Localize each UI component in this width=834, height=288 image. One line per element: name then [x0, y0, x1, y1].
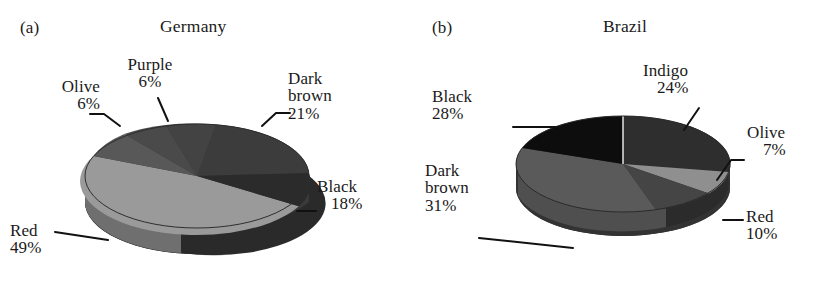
- panel-b-brazil: (b) Brazil: [417, 0, 834, 288]
- label-germany-black-name: Black: [317, 178, 407, 195]
- pie-chart-germany: [85, 112, 317, 264]
- label-germany-dark-brown-name-2: brown: [288, 87, 398, 104]
- pie-germany-top-face: [80, 123, 311, 235]
- label-germany-red: Red 49%: [10, 222, 90, 257]
- panel-a-germany: (a) Germany: [0, 0, 417, 288]
- label-brazil-dark-brown-name-1: Dark: [425, 162, 525, 179]
- pie-chart-brazil: [516, 104, 732, 246]
- panel-b-title: Brazil: [603, 16, 647, 37]
- label-germany-black: Black 18%: [317, 178, 407, 213]
- label-brazil-dark-brown-value: 31%: [425, 197, 525, 214]
- label-brazil-black: Black 28%: [432, 88, 522, 123]
- label-germany-purple-name: Purple: [110, 56, 190, 73]
- label-brazil-red-name: Red: [746, 208, 826, 225]
- label-brazil-olive-name: Olive: [747, 124, 827, 141]
- panel-a-letter: (a): [20, 18, 39, 38]
- figure-two-pie-charts: (a) Germany: [0, 0, 834, 288]
- label-brazil-black-value: 28%: [432, 105, 522, 122]
- label-brazil-dark-brown-name-2: brown: [425, 179, 525, 196]
- label-brazil-black-name: Black: [432, 88, 522, 105]
- label-brazil-olive: Olive 7%: [747, 124, 827, 159]
- panel-b-letter: (b): [432, 18, 452, 38]
- label-germany-olive-value: 6%: [0, 95, 100, 112]
- label-germany-dark-brown-value: 21%: [288, 105, 398, 122]
- label-germany-dark-brown: Dark brown 21%: [288, 70, 398, 122]
- label-germany-black-value: 18%: [317, 195, 407, 212]
- label-brazil-indigo-name: Indigo: [643, 62, 753, 79]
- label-brazil-dark-brown: Dark brown 31%: [425, 162, 525, 214]
- label-germany-purple-value: 6%: [110, 73, 190, 90]
- label-germany-olive-name: Olive: [0, 78, 100, 95]
- label-brazil-indigo: Indigo 24%: [643, 62, 753, 97]
- label-germany-olive: Olive 6%: [0, 78, 100, 113]
- label-germany-red-value: 49%: [10, 239, 90, 256]
- label-brazil-olive-value: 7%: [747, 141, 827, 158]
- label-germany-purple: Purple 6%: [110, 56, 190, 91]
- pie-brazil-top-face: [516, 116, 730, 212]
- label-brazil-red: Red 10%: [746, 208, 826, 243]
- label-germany-dark-brown-name-1: Dark: [288, 70, 398, 87]
- label-brazil-red-value: 10%: [746, 225, 826, 242]
- label-brazil-indigo-value: 24%: [643, 79, 753, 96]
- panel-a-title: Germany: [160, 16, 227, 37]
- label-germany-red-name: Red: [10, 222, 90, 239]
